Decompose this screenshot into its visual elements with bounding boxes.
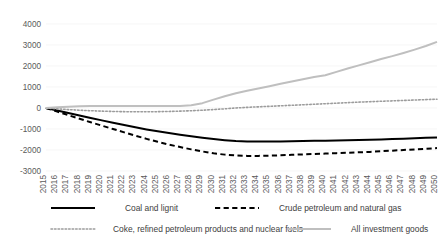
x-axis-tick-label: 2016 — [50, 175, 59, 194]
x-axis-tick-label: 2032 — [229, 175, 238, 194]
x-axis-tick-label: 2030 — [207, 175, 216, 194]
x-axis-tick-label: 2026 — [162, 175, 171, 194]
x-axis-tick-label: 2047 — [396, 175, 405, 194]
gridlines — [46, 24, 437, 171]
y-axis-tick-labels: 40003000200010000-1000-2000-3000 — [20, 20, 41, 176]
legend-item-label: Coke, refined petroleum products and nuc… — [113, 224, 303, 234]
y-axis-tick-label: 0 — [36, 104, 41, 113]
x-axis-tick-label: 2034 — [251, 175, 260, 194]
x-axis-tick-label: 2015 — [39, 175, 48, 194]
x-axis-tick-label: 2039 — [307, 175, 316, 194]
x-axis-tick-label: 2019 — [84, 175, 93, 194]
series-line — [46, 108, 437, 142]
y-axis-tick-label: -1000 — [20, 125, 41, 134]
line-chart: 40003000200010000-1000-2000-3000 2015201… — [0, 0, 448, 245]
x-axis-tick-label: 2020 — [95, 175, 104, 194]
chart-legend: Coal and lignitCrude petroleum and natur… — [51, 203, 428, 234]
x-axis-tick-label: 2022 — [117, 175, 126, 194]
x-axis-tick-label: 2040 — [318, 175, 327, 194]
x-axis-tick-label: 2036 — [274, 175, 283, 194]
x-axis-tick-label: 2042 — [341, 175, 350, 194]
x-axis-tick-label: 2018 — [73, 175, 82, 194]
x-axis-tick-label: 2044 — [363, 175, 372, 194]
series-line — [46, 42, 437, 108]
x-axis-tick-label: 2031 — [218, 175, 227, 194]
y-axis-tick-label: 4000 — [23, 20, 42, 29]
x-axis-tick-label: 2035 — [262, 175, 271, 194]
x-axis-tick-label: 2024 — [140, 175, 149, 194]
x-axis-tick-label: 2045 — [374, 175, 383, 194]
chart-canvas: 40003000200010000-1000-2000-3000 2015201… — [0, 0, 448, 245]
x-axis-tick-label: 2027 — [173, 175, 182, 194]
x-axis-tick-label: 2046 — [385, 175, 394, 194]
x-axis-tick-label: 2023 — [128, 175, 137, 194]
y-axis-tick-label: 3000 — [23, 41, 42, 50]
series-line — [46, 108, 437, 156]
y-axis-tick-label: -3000 — [20, 167, 41, 176]
y-axis-tick-label: -2000 — [20, 146, 41, 155]
x-axis-tick-label: 2041 — [329, 175, 338, 194]
x-axis-tick-label: 2050 — [430, 175, 439, 194]
x-axis-tick-label: 2037 — [285, 175, 294, 194]
plot-series-group — [46, 42, 437, 156]
x-axis-tick-label: 2029 — [195, 175, 204, 194]
x-axis-tick-label: 2033 — [240, 175, 249, 194]
x-axis-tick-label: 2025 — [151, 175, 160, 194]
y-axis-tick-label: 2000 — [23, 62, 42, 71]
x-axis-tick-label: 2017 — [61, 175, 70, 194]
legend-item-label: Crude petroleum and natural gas — [279, 203, 401, 213]
x-axis-tick-label: 2028 — [184, 175, 193, 194]
x-axis-tick-label: 2049 — [419, 175, 428, 194]
y-axis-tick-label: 1000 — [23, 83, 42, 92]
x-axis-tick-label: 2021 — [106, 175, 115, 194]
x-axis-tick-label: 2048 — [408, 175, 417, 194]
x-axis-tick-label: 2038 — [296, 175, 305, 194]
legend-item-label: All investment goods — [351, 224, 428, 234]
x-axis-tick-labels: 2015201620172018201920202021202220232024… — [39, 175, 439, 194]
x-axis-tick-label: 2043 — [352, 175, 361, 194]
legend-item-label: Coal and lignit — [125, 203, 179, 213]
